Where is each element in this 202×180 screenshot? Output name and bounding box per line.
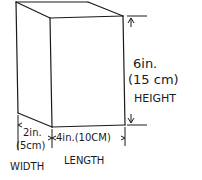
prism-outline — [16, 2, 125, 127]
prism-diagram: 6in. (15 cm) HEIGHT 2in. (5cm) WIDTH 4in… — [0, 0, 202, 180]
height-label: HEIGHT — [134, 92, 176, 105]
width-label: WIDTH — [10, 161, 44, 172]
length-dimension-label: 4in.(10CM) — [56, 132, 111, 143]
height-imperial-label: 6in. — [133, 56, 157, 71]
width-imperial-label: 2in. — [23, 127, 42, 138]
width-metric-label: (5cm) — [16, 140, 46, 151]
height-metric-label: (15 cm) — [128, 72, 179, 87]
length-label: LENGTH — [64, 155, 104, 166]
